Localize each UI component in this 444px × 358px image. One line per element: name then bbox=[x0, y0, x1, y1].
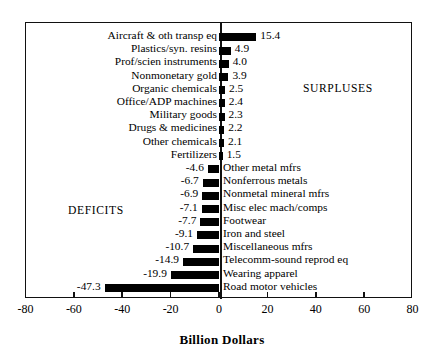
x-axis-tick-label: -60 bbox=[54, 302, 94, 317]
bar bbox=[202, 205, 219, 213]
x-axis-tick-label: -20 bbox=[151, 302, 191, 317]
bar bbox=[219, 33, 256, 41]
bar-category-label: Road motor vehicles bbox=[223, 280, 317, 293]
x-axis-tick bbox=[170, 292, 172, 298]
bar-category-label: Wearing apparel bbox=[223, 267, 298, 280]
bar-value-label: 2.1 bbox=[228, 135, 242, 148]
x-axis-tick-label: 80 bbox=[393, 302, 433, 317]
bar-category-label: Prof/scien instruments bbox=[115, 55, 217, 68]
bar-category-label: Organic chemicals bbox=[132, 82, 217, 95]
bar-row: Nonmonetary gold3.9 bbox=[0, 71, 444, 84]
bar-value-label: -19.9 bbox=[0, 267, 167, 280]
x-axis-tick-label: -80 bbox=[6, 302, 46, 317]
bar-category-label: Telecomm-sound reprod eq bbox=[223, 253, 348, 266]
x-axis-tick-label: -40 bbox=[102, 302, 142, 317]
bar-category-label: Nonmetal mineral mfrs bbox=[223, 187, 329, 200]
bar-category-label: Drugs & medicines bbox=[128, 121, 217, 134]
x-axis-tick bbox=[73, 292, 75, 298]
bar bbox=[193, 245, 219, 253]
bar bbox=[171, 271, 219, 279]
bar-row: Office/ADP machines2.4 bbox=[0, 97, 444, 110]
bar-category-label: Footwear bbox=[223, 214, 266, 227]
bar-value-label: -9.1 bbox=[0, 227, 193, 240]
bar-row: Prof/scien instruments4.0 bbox=[0, 57, 444, 70]
x-axis-tick bbox=[121, 292, 123, 298]
bar bbox=[183, 258, 219, 266]
bar-row: Drugs & medicines2.2 bbox=[0, 123, 444, 136]
bar-value-label: 2.5 bbox=[229, 82, 243, 95]
bar bbox=[219, 86, 225, 94]
bar bbox=[197, 231, 219, 239]
x-axis-title: Billion Dollars bbox=[0, 332, 444, 348]
x-axis-tick-label: 20 bbox=[247, 302, 287, 317]
bar bbox=[219, 113, 225, 121]
bar bbox=[105, 284, 219, 292]
bar-row: Military goods2.3 bbox=[0, 110, 444, 123]
x-axis-tick bbox=[218, 292, 220, 298]
bar-category-label: Plastics/syn. resins bbox=[131, 42, 217, 55]
bar bbox=[208, 165, 219, 173]
bar bbox=[219, 73, 228, 81]
bar-row: Organic chemicals2.5 bbox=[0, 84, 444, 97]
bar-value-label: 1.5 bbox=[227, 148, 241, 161]
bar-category-label: Other chemicals bbox=[143, 135, 217, 148]
bar bbox=[219, 60, 229, 68]
bar-category-label: Nonferrous metals bbox=[223, 174, 307, 187]
x-axis-tick bbox=[267, 292, 269, 298]
bar bbox=[219, 126, 224, 134]
bar bbox=[219, 139, 224, 147]
bar-value-label: 2.2 bbox=[228, 121, 242, 134]
bar-category-label: Office/ADP machines bbox=[117, 95, 217, 108]
bar-value-label: -4.6 bbox=[0, 161, 204, 174]
bar-category-label: Iron and steel bbox=[223, 227, 285, 240]
x-axis-tick-label: 60 bbox=[344, 302, 384, 317]
bar-value-label: 15.4 bbox=[260, 29, 280, 42]
bar-row: Aircraft & oth transp eq15.4 bbox=[0, 31, 444, 44]
x-axis-tick bbox=[363, 292, 365, 298]
x-axis-tick-label: 0 bbox=[199, 302, 239, 317]
x-axis-tick bbox=[315, 292, 317, 298]
x-axis-tick-label: 40 bbox=[296, 302, 336, 317]
bar-category-label: Nonmonetary gold bbox=[131, 69, 217, 82]
bar bbox=[200, 218, 219, 226]
bar-category-label: Miscellaneous mfrs bbox=[223, 240, 313, 253]
bar-category-label: Misc elec mach/comps bbox=[223, 201, 327, 214]
bar bbox=[219, 152, 223, 160]
bar-value-label: 3.9 bbox=[232, 69, 246, 82]
bar-category-label: Aircraft & oth transp eq bbox=[108, 29, 217, 42]
bar-category-label: Other metal mfrs bbox=[223, 161, 301, 174]
bar-row: Other chemicals2.1 bbox=[0, 137, 444, 150]
bar-value-label: 4.0 bbox=[233, 55, 247, 68]
bar-value-label: 4.9 bbox=[235, 42, 249, 55]
surpluses-annotation: SURPLUSES bbox=[303, 82, 373, 95]
bar-row: Plastics/syn. resins4.9 bbox=[0, 44, 444, 57]
bar bbox=[202, 192, 219, 200]
bar bbox=[219, 99, 225, 107]
bar bbox=[203, 179, 219, 187]
bar-value-label: -6.9 bbox=[0, 187, 198, 200]
bar-category-label: Military goods bbox=[150, 108, 217, 121]
deficits-annotation: DEFICITS bbox=[68, 204, 124, 217]
bar-value-label: -14.9 bbox=[0, 253, 179, 266]
bar bbox=[219, 47, 231, 55]
bar-value-label: 2.3 bbox=[229, 108, 243, 121]
bar-value-label: 2.4 bbox=[229, 95, 243, 108]
bar-value-label: -6.7 bbox=[0, 174, 199, 187]
bar-value-label: -47.3 bbox=[0, 280, 101, 293]
bar-row: Road motor vehicles-47.3 bbox=[0, 282, 444, 295]
bar-category-label: Fertilizers bbox=[171, 148, 217, 161]
bar-chart: Aircraft & oth transp eq15.4Plastics/syn… bbox=[0, 0, 444, 358]
bar-value-label: -10.7 bbox=[0, 240, 189, 253]
